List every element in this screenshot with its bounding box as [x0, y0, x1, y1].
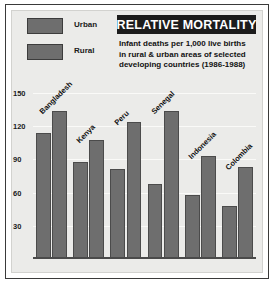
- bar-urban-indonesia: [185, 195, 200, 259]
- bar-rural-senegal: [164, 111, 179, 259]
- chart-subtitle: Infant deaths per 1,000 live births in r…: [119, 39, 259, 71]
- chart-baseline: [33, 257, 256, 259]
- y-tick-label-90: 90: [13, 155, 31, 164]
- subtitle-line-1: Infant deaths per 1,000 live births: [119, 39, 259, 50]
- y-tick-label-150: 150: [13, 89, 31, 98]
- bar-group: [182, 82, 219, 259]
- y-tick-label-30: 30: [13, 222, 31, 231]
- legend-item-urban: Urban: [27, 18, 122, 35]
- legend-label-urban: Urban: [74, 20, 97, 29]
- chart-bars: [33, 82, 256, 259]
- bar-urban-kenya: [73, 162, 88, 259]
- bar-urban-peru: [110, 169, 125, 259]
- bar-group: [219, 82, 256, 259]
- y-tick-label-120: 120: [13, 122, 31, 131]
- chart-plot-area: BangladeshKenyaPeruSenegalIndonesiaColom…: [11, 82, 263, 273]
- legend-swatch-urban: [27, 18, 63, 34]
- bar-urban-colombia: [222, 206, 237, 259]
- bar-urban-bangladesh: [36, 133, 51, 259]
- bar-rural-kenya: [89, 140, 104, 259]
- legend-label-rural: Rural: [74, 46, 94, 55]
- chart-legend: Urban Rural: [27, 18, 122, 68]
- chart-title-bar: RELATIVE MORTALITY: [117, 15, 256, 34]
- chart-figure: Urban Rural RELATIVE MORTALITY Infant de…: [0, 0, 274, 283]
- bar-rural-peru: [127, 122, 142, 259]
- bar-group: [107, 82, 144, 259]
- y-tick-label-60: 60: [13, 189, 31, 198]
- bar-group: [70, 82, 107, 259]
- chart-title: RELATIVE MORTALITY: [117, 18, 257, 32]
- legend-item-rural: Rural: [27, 44, 122, 61]
- bar-rural-indonesia: [201, 156, 216, 259]
- legend-swatch-rural: [27, 44, 63, 60]
- bar-urban-senegal: [148, 184, 163, 259]
- subtitle-line-2: in rural & urban areas of selected: [119, 50, 259, 61]
- chart-plot-inner: BangladeshKenyaPeruSenegalIndonesiaColom…: [33, 82, 256, 259]
- bar-rural-bangladesh: [52, 111, 67, 259]
- subtitle-line-3: developing countries (1986-1988): [119, 60, 259, 71]
- bar-rural-colombia: [238, 167, 253, 259]
